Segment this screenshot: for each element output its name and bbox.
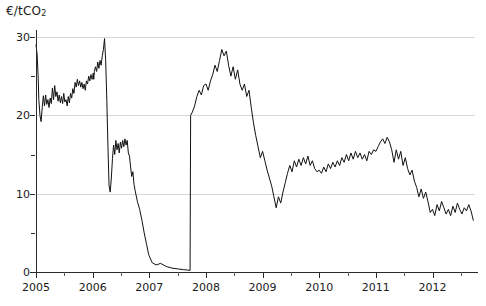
y-tick-label-30: 30 xyxy=(16,31,30,44)
series-carbon-price xyxy=(36,37,475,272)
y-tick-label-10: 10 xyxy=(16,187,30,200)
x-tick-minor-2006.5 xyxy=(121,272,122,276)
x-tick-minor-2012.5 xyxy=(461,272,462,276)
series-path-0 xyxy=(36,39,473,271)
x-tick-2006 xyxy=(93,272,94,278)
y-axis-line xyxy=(36,30,37,278)
x-tick-minor-2010.5 xyxy=(348,272,349,276)
chart-container: €/tCO2 0102030 2005200620072008200920102… xyxy=(0,0,486,306)
y-tick-20 xyxy=(30,115,35,116)
x-tick-label-2006: 2006 xyxy=(79,281,107,294)
y-tick-30 xyxy=(30,37,35,38)
x-tick-label-2007: 2007 xyxy=(135,281,163,294)
y-tick-10 xyxy=(30,194,35,195)
x-tick-label-2011: 2011 xyxy=(362,281,390,294)
y-tick-label-0: 0 xyxy=(23,266,30,279)
x-tick-label-2005: 2005 xyxy=(22,281,50,294)
y-tick-label-20: 20 xyxy=(16,109,30,122)
x-tick-label-2009: 2009 xyxy=(249,281,277,294)
x-tick-2008 xyxy=(206,272,207,278)
x-tick-2007 xyxy=(149,272,150,278)
x-tick-2010 xyxy=(319,272,320,278)
y-tick-minor-25 xyxy=(31,76,35,77)
x-tick-2012 xyxy=(433,272,434,278)
x-tick-minor-2007.5 xyxy=(178,272,179,276)
plot-area xyxy=(36,37,475,272)
x-tick-2005 xyxy=(36,272,37,278)
x-tick-minor-2005.5 xyxy=(64,272,65,276)
x-axis-line xyxy=(30,272,478,273)
x-tick-minor-2011.5 xyxy=(404,272,405,276)
x-tick-minor-2009.5 xyxy=(291,272,292,276)
x-tick-label-2012: 2012 xyxy=(419,281,447,294)
x-tick-label-2008: 2008 xyxy=(192,281,220,294)
x-tick-2009 xyxy=(263,272,264,278)
y-tick-minor-15 xyxy=(31,155,35,156)
x-tick-minor-2008.5 xyxy=(234,272,235,276)
x-tick-label-2010: 2010 xyxy=(305,281,333,294)
x-tick-2011 xyxy=(376,272,377,278)
y-axis-ticks: 0102030 xyxy=(0,0,30,306)
y-tick-minor-5 xyxy=(31,233,35,234)
